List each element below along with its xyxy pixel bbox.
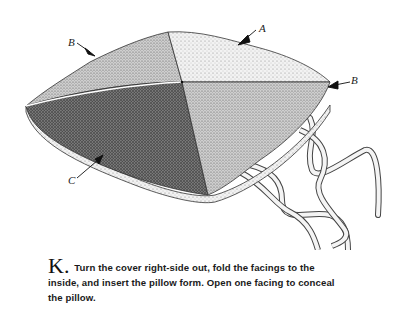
- label-b-left: B: [68, 36, 75, 48]
- pillow-drawing: [0, 0, 405, 250]
- figure-caption: K. Turn the cover right-side out, fold t…: [48, 258, 348, 305]
- label-b-right: B: [351, 74, 358, 86]
- label-c: C: [68, 174, 75, 186]
- caption-text: Turn the cover right-side out, fold the …: [48, 262, 335, 303]
- pillow-cover-illustration: [0, 0, 405, 250]
- label-a: A: [259, 22, 266, 34]
- step-letter: K.: [48, 253, 70, 278]
